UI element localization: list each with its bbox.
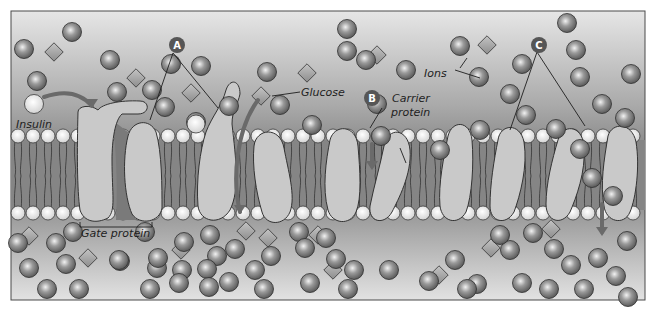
ion-particle [372, 127, 391, 146]
ion-particle [192, 57, 211, 76]
phospholipid-head [416, 206, 430, 220]
badge-b-text: B [368, 93, 376, 104]
ion-particle [198, 260, 217, 279]
insulin-label: Insulin [16, 118, 52, 131]
ion-particle [513, 55, 532, 74]
ion-particle [420, 272, 439, 291]
ion-particle [470, 68, 489, 87]
ion-particle [303, 116, 322, 135]
phospholipid-head [416, 129, 430, 143]
phospholipid-head [581, 206, 595, 220]
ion-particle [156, 98, 175, 117]
ion-particle [143, 81, 162, 100]
badge-b: B [364, 90, 380, 106]
phospholipid-head [161, 206, 175, 220]
ion-particle [70, 280, 89, 299]
ion-particle [446, 251, 465, 270]
ion-particle [255, 280, 274, 299]
ion-particle [170, 274, 189, 293]
badge-a-text: A [173, 40, 181, 51]
ion-particle [618, 232, 637, 251]
badge-c-text: C [535, 40, 542, 51]
ion-particle [258, 63, 277, 82]
ion-particle [327, 250, 346, 269]
ion-particle [110, 251, 129, 270]
phospholipid-head [356, 206, 370, 220]
label-ions: Ions [424, 67, 447, 80]
ion-particle [246, 261, 265, 280]
carrier-label-line1: Carrier [392, 92, 431, 105]
ion-particle [20, 259, 39, 278]
ion-particle [28, 72, 47, 91]
ion-particle [616, 109, 635, 128]
ion-particle [593, 95, 612, 114]
ion-particle [567, 41, 586, 60]
ion-particle [451, 37, 470, 56]
label-carrier-protein: Carrier protein [390, 92, 431, 119]
carrier-label-line2: protein [390, 106, 430, 119]
insulin-molecule [25, 95, 44, 114]
phospholipid-head [176, 129, 190, 143]
ion-particle [540, 280, 559, 299]
ion-particle [38, 280, 57, 299]
ion-particle [545, 240, 564, 259]
phospholipid-head [356, 129, 370, 143]
ion-particle [175, 233, 194, 252]
phospholipid-head [56, 129, 70, 143]
ion-particle [513, 274, 532, 293]
ion-particle [317, 229, 336, 248]
carrier-2 [325, 129, 360, 222]
ion-particle [15, 40, 34, 59]
ion-particle [220, 273, 239, 292]
ion-particle [622, 65, 641, 84]
ion-particle [296, 239, 315, 258]
ion-particle [101, 51, 120, 70]
phospholipid-head [401, 206, 415, 220]
ion-particle [583, 169, 602, 188]
ion-particle [589, 249, 608, 268]
ion-particle [604, 187, 623, 206]
phospholipid-head [176, 206, 190, 220]
ion-particle [524, 224, 543, 243]
gate-protein-right [125, 123, 162, 221]
ion-particle [345, 261, 364, 280]
ion-particle [575, 280, 594, 299]
ion-particle [149, 249, 168, 268]
ion-particle [571, 140, 590, 159]
ion-particle [471, 121, 490, 140]
phospholipid-head [296, 206, 310, 220]
gate-label: Gate protein [81, 227, 150, 240]
phospholipid-head [56, 206, 70, 220]
ion-particle [619, 288, 638, 307]
ion-particle [339, 280, 358, 299]
label-glucose: Glucose [301, 86, 345, 99]
ion-particle [47, 234, 66, 253]
ion-particle [338, 42, 357, 61]
phospholipid-head [26, 206, 40, 220]
phospholipid-head [281, 129, 295, 143]
ion-particle [607, 267, 626, 286]
phospholipid-head [311, 206, 325, 220]
membrane-diagram: Insulin Glucose Ions Carrier protein Gat… [0, 0, 654, 311]
ion-particle [517, 106, 536, 125]
ion-particle [562, 256, 581, 275]
badge-c: C [531, 37, 547, 53]
ion-particle [220, 97, 239, 116]
phospholipid-head [11, 129, 25, 143]
ion-particle [63, 23, 82, 42]
phospholipid-head [521, 206, 535, 220]
ion-particle [200, 278, 219, 297]
ion-particle [491, 226, 510, 245]
ion-particle [397, 61, 416, 80]
ions-label: Ions [424, 67, 447, 80]
ion-particle [57, 255, 76, 274]
ion-particle [338, 20, 357, 39]
phospholipid-head [26, 129, 40, 143]
ion-particle [201, 226, 220, 245]
ion-particle [547, 120, 566, 139]
ion-particle [558, 14, 577, 33]
ion-particle [431, 141, 450, 160]
ion-particle [226, 240, 245, 259]
ion-particle [262, 247, 281, 266]
phospholipid-head [476, 206, 490, 220]
